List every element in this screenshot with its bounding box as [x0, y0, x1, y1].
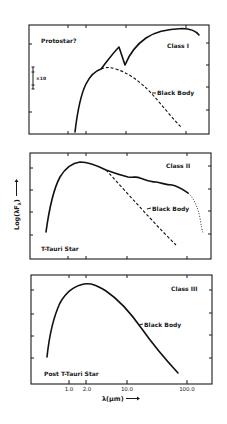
- x-axis-label: λ(μm): [102, 395, 124, 403]
- class-label: Class I: [167, 42, 189, 49]
- x-tick-label: 100.0: [179, 386, 195, 392]
- scale-bar-label: ×10: [36, 76, 46, 81]
- blackbody-label: Black Body: [157, 89, 194, 97]
- class-i-blackbody-curve: [101, 68, 182, 129]
- blackbody-label: Black Body: [144, 321, 181, 329]
- y-axis-label: Log(λFλ): [13, 199, 22, 230]
- blackbody-label: Black Body: [152, 205, 189, 213]
- class-ii-observed-curve: [46, 162, 188, 232]
- panel-class-ii: T-Tauri Star Class II Black Body: [30, 153, 211, 259]
- arrow-up-icon: [15, 179, 19, 196]
- class-label: Class III: [171, 285, 197, 292]
- class-iii-blackbody-curve: [47, 284, 178, 373]
- x-axis: 1.0 2.0 10.0 100.0 λ(μm): [65, 386, 196, 403]
- x-tick-label: 10.0: [121, 386, 134, 392]
- arrow-right-icon: [126, 397, 140, 401]
- panel-class-i: ×10 Protostar? Class I Black Body: [29, 25, 209, 134]
- object-label: Post T-Tauri Star: [44, 370, 99, 377]
- figure: ×10 Protostar? Class I Black Body: [0, 0, 227, 424]
- panel-class-iii: Post T-Tauri Star Class III Black Body: [31, 275, 212, 384]
- object-label: T-Tauri Star: [41, 245, 79, 252]
- class-label: Class II: [166, 162, 190, 169]
- object-label: Protostar?: [41, 37, 77, 44]
- class-ii-extrapolated-curve: [188, 193, 203, 233]
- x-tick-label: 1.0: [65, 386, 74, 392]
- scale-bar: ×10: [32, 67, 47, 89]
- x-tick-label: 2.0: [83, 386, 92, 392]
- y-axis: Log(λFλ): [13, 179, 22, 230]
